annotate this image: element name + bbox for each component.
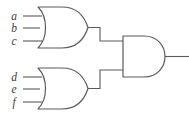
wire-or1-out-path — [88, 28, 123, 42]
input-label-f: f — [12, 96, 17, 109]
input-label-d: d — [11, 71, 17, 83]
or-gate-2-body — [38, 68, 88, 109]
wire-or1-to-and — [88, 28, 123, 42]
or-gate-1 — [38, 7, 88, 48]
or-gate-1-body — [38, 7, 88, 48]
and-gate-1-body — [123, 36, 165, 77]
input-label-b: b — [11, 22, 17, 34]
input-label-a: a — [11, 10, 17, 22]
input-wires-or-gate-1 — [23, 16, 42, 41]
and-gate-1 — [123, 36, 165, 77]
logic-circuit-diagram: a b c d e f — [0, 0, 189, 119]
wire-or2-out-path — [88, 70, 123, 89]
wire-or2-to-and — [88, 70, 123, 89]
input-label-c: c — [11, 35, 16, 47]
input-label-e: e — [11, 83, 16, 95]
circuit-canvas: a b c d e f — [0, 0, 189, 119]
or-gate-2 — [38, 68, 88, 109]
input-wires-or-gate-2 — [23, 77, 42, 102]
